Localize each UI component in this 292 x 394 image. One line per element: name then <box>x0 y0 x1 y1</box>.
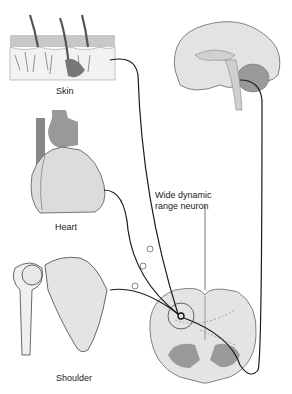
heart-illustration <box>31 110 105 213</box>
diagram-canvas <box>0 0 292 394</box>
neuron-label: Wide dynamic range neuron <box>155 190 212 212</box>
shoulder-label: Shoulder <box>56 373 92 384</box>
heart-label: Heart <box>55 222 77 233</box>
skin-label: Skin <box>56 86 74 97</box>
skin-illustration <box>10 15 115 80</box>
excitatory-synapse-icons <box>132 246 153 289</box>
brain-illustration <box>174 22 279 110</box>
shoulder-illustration <box>13 257 107 355</box>
neuron-label-line1: Wide dynamic <box>155 190 212 201</box>
neuron-label-line2: range neuron <box>155 201 212 212</box>
